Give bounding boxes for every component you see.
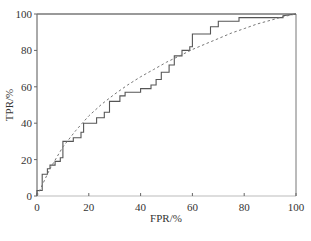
y-axis-title: TPR/% [3,89,15,121]
axis-ticks: 020406080100020406080100 [16,8,305,213]
empirical-roc-curve [37,14,296,196]
y-tick-label: 20 [21,154,33,166]
y-tick-label: 0 [27,190,33,202]
x-tick-label: 80 [239,201,251,213]
plot-frame [37,14,296,196]
x-tick-label: 20 [83,201,95,213]
x-tick-label: 0 [34,201,40,213]
y-tick-label: 80 [21,44,33,56]
roc-chart: 020406080100020406080100 FPR/% TPR/% [0,0,311,241]
y-tick-label: 60 [21,81,33,93]
fitted-roc-curve [37,14,296,196]
x-tick-label: 40 [135,201,147,213]
x-axis-title: FPR/% [150,212,182,224]
x-tick-label: 100 [288,201,305,213]
y-tick-label: 100 [16,8,33,20]
data-series [37,14,296,196]
x-tick-label: 60 [187,201,199,213]
y-tick-label: 40 [21,117,33,129]
